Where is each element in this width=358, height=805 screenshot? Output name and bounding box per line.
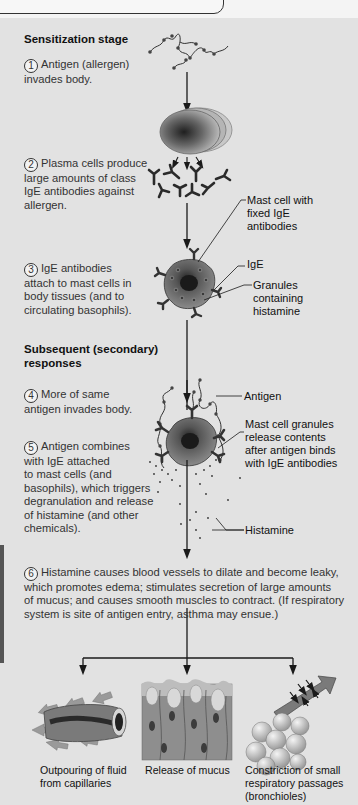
caption-outpouring-fluid: Outpouring of fluid from capillaries bbox=[40, 764, 127, 790]
antigen-icon bbox=[148, 34, 228, 70]
ige-antibodies-icon bbox=[149, 165, 230, 197]
step-4: 4More of same antigen invades body. bbox=[24, 388, 132, 416]
step-number-1: 1 bbox=[24, 59, 38, 73]
mucus-tissue-icon bbox=[142, 679, 232, 760]
label-histamine: Histamine bbox=[245, 524, 294, 537]
step-5: 5Antigen combines with IgE attached to m… bbox=[24, 440, 153, 535]
label-granules-histamine: Granules containing histamine bbox=[253, 279, 303, 318]
step-number-3: 3 bbox=[24, 263, 38, 277]
step-6: 6Histamine causes blood vessels to dilat… bbox=[24, 566, 344, 621]
caption-constriction-bronchioles: Constriction of small respiratory passag… bbox=[245, 764, 343, 803]
heading-subsequent-line1: Subsequent (secondary) bbox=[24, 342, 158, 356]
step-2: 2Plasma cells produce large amounts of c… bbox=[24, 157, 147, 212]
heading-sensitization-stage: Sensitization stage bbox=[24, 32, 128, 46]
step-number-6: 6 bbox=[24, 567, 38, 581]
step-number-2: 2 bbox=[24, 158, 38, 172]
plasma-cell-icon bbox=[160, 108, 232, 154]
step-1: 1Antigen (allergen) invades body. bbox=[24, 58, 129, 86]
heading-subsequent-responses: Subsequent (secondary) responses bbox=[24, 342, 158, 370]
step-3: 3IgE antibodies attach to mast cells in … bbox=[24, 262, 132, 317]
label-mast-cell-granules-release: Mast cell granules release contents afte… bbox=[245, 418, 337, 470]
mast-cell-icon bbox=[155, 249, 221, 317]
histamine-granules bbox=[149, 459, 241, 539]
bronchiole-icon bbox=[246, 676, 336, 775]
degranulating-mast-cell-icon bbox=[156, 406, 224, 466]
heading-subsequent-line2: responses bbox=[24, 356, 158, 370]
label-ige: IgE bbox=[247, 258, 264, 271]
step-number-4: 4 bbox=[24, 389, 38, 403]
caption-release-mucus: Release of mucus bbox=[145, 764, 230, 777]
step-number-5: 5 bbox=[24, 441, 38, 455]
label-mast-cell-fixed-ige: Mast cell with fixed IgE antibodies bbox=[247, 194, 313, 233]
capillary-icon bbox=[32, 689, 126, 752]
label-antigen: Antigen bbox=[244, 390, 281, 403]
